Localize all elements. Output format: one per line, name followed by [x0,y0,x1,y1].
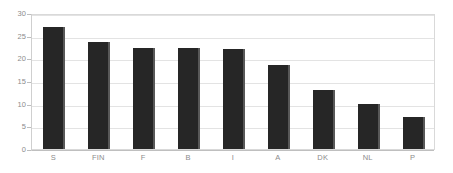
y-tick-mark-20 [27,59,31,60]
x-tick-label-S: S [51,154,56,162]
x-tick-label-DK: DK [317,154,328,162]
bar-chart: 051015202530 SFINFBIADKNLP [0,0,453,173]
y-tick-label-30: 30 [17,10,26,18]
y-tick-mark-0 [27,150,31,151]
bar-I[interactable] [223,49,245,149]
gridline-30 [32,15,434,16]
y-axis-tick-labels: 051015202530 [0,0,26,173]
y-tick-label-10: 10 [17,101,26,109]
bar-B[interactable] [178,48,200,149]
x-tick-label-NL: NL [363,154,373,162]
y-tick-mark-5 [27,127,31,128]
bar-S[interactable] [43,27,65,149]
y-tick-mark-15 [27,82,31,83]
y-tick-mark-30 [27,14,31,15]
y-tick-label-0: 0 [22,146,26,154]
y-tick-label-25: 25 [17,33,26,41]
bar-A[interactable] [268,65,290,149]
bar-NL[interactable] [358,104,380,149]
bar-DK[interactable] [313,90,335,149]
x-tick-label-F: F [141,154,146,162]
bar-FIN[interactable] [88,42,110,149]
bar-F[interactable] [133,48,155,149]
x-tick-label-A: A [275,154,280,162]
y-tick-label-5: 5 [22,124,26,132]
x-tick-label-FIN: FIN [92,154,105,162]
x-axis-tick-labels: SFINFBIADKNLP [31,154,435,170]
x-tick-label-I: I [232,154,234,162]
gridline-25 [32,38,434,39]
x-tick-label-P: P [410,154,415,162]
y-tick-mark-25 [27,37,31,38]
y-tick-label-20: 20 [17,56,26,64]
gridline-0 [32,150,434,151]
y-tick-label-15: 15 [17,78,26,86]
bar-P[interactable] [403,117,425,149]
y-tick-mark-10 [27,105,31,106]
x-tick-label-B: B [186,154,191,162]
plot-area [31,14,435,150]
y-axis-line [31,14,32,151]
